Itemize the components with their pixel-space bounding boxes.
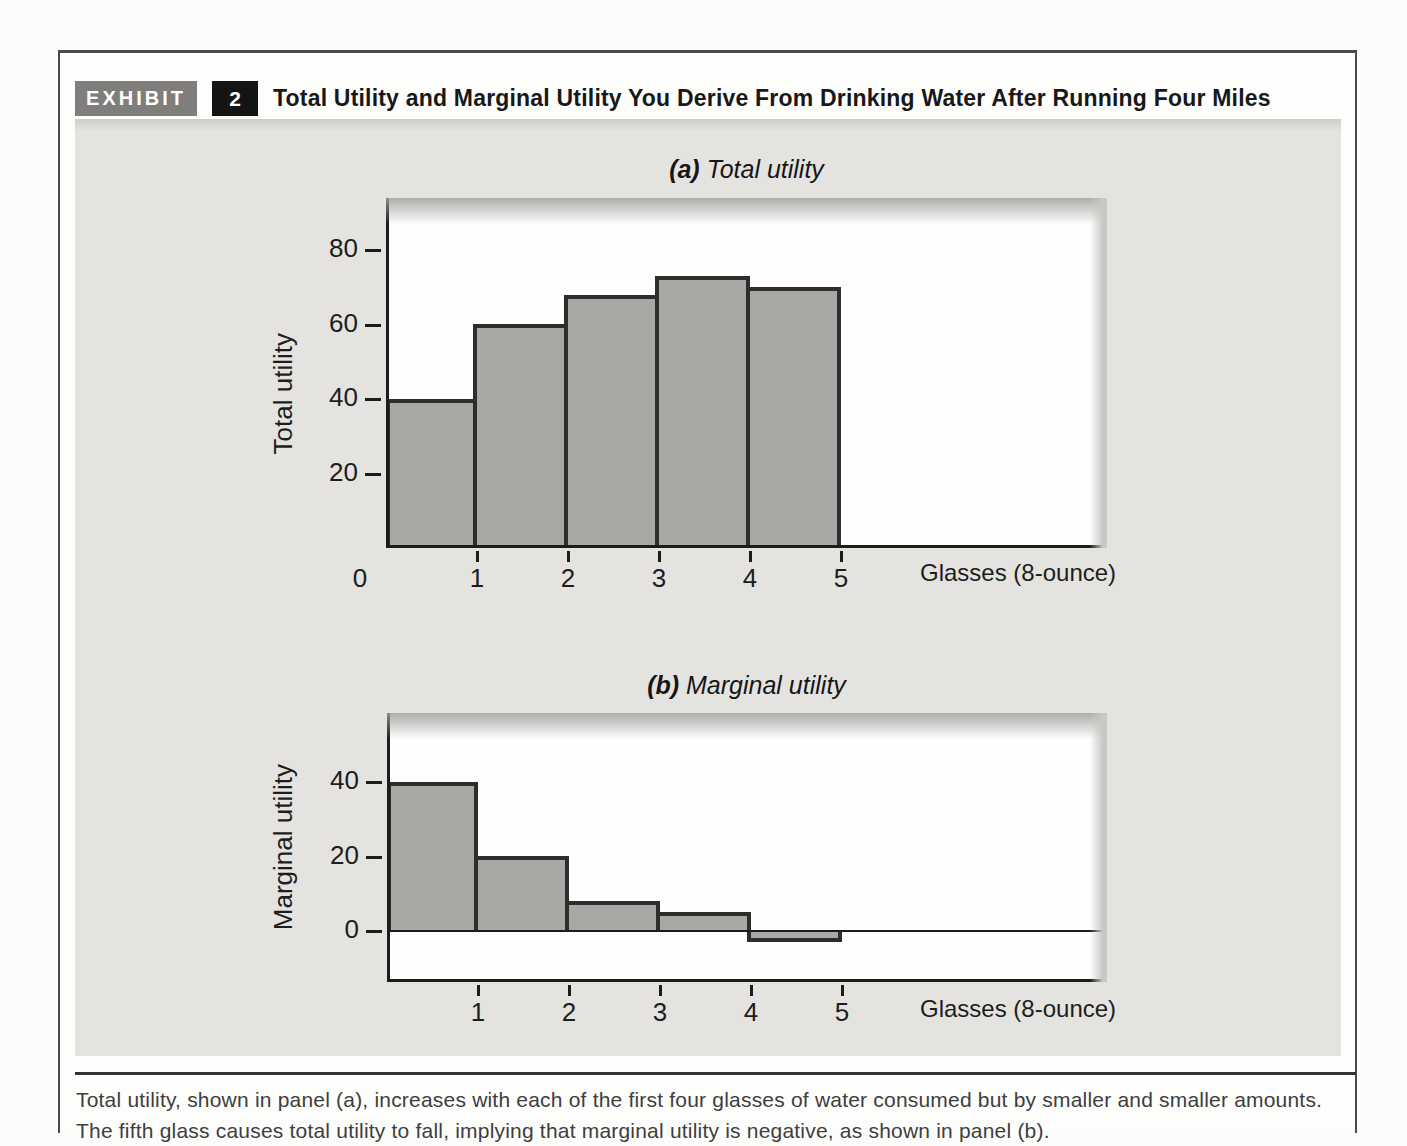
exhibit-badge: EXHIBIT	[75, 81, 197, 116]
exhibit-number-badge: 2	[212, 81, 258, 116]
panel-a-title-prefix: (a)	[669, 155, 700, 183]
y-tick-label-0: 0	[345, 914, 359, 945]
chart-panel-background: (a) Total utility Total utility 20406080…	[75, 119, 1341, 1056]
panel-b-right-shadow	[1090, 713, 1107, 982]
x-tick-label-5: 5	[834, 563, 848, 594]
panel-a-title: (a) Total utility	[386, 155, 1107, 184]
x-tick-1	[476, 551, 479, 562]
panel-b-zero-line	[387, 930, 1107, 932]
x-tick-label-1: 1	[471, 997, 485, 1028]
x-tick-label-1: 1	[470, 563, 484, 594]
bar-glass-2	[473, 324, 568, 548]
x-tick-label-5: 5	[835, 997, 849, 1028]
x-tick-5	[840, 551, 843, 562]
panel-a-plot-area: 20406080012345	[386, 198, 1107, 548]
y-tick-80	[365, 249, 381, 252]
panel-a-y-axis	[386, 198, 389, 548]
y-tick-label-20: 20	[329, 457, 358, 488]
caption-rule	[75, 1072, 1356, 1075]
exhibit-title: Total Utility and Marginal Utility You D…	[273, 85, 1271, 112]
panel-b-title-prefix: (b)	[647, 671, 679, 699]
bar-glass-1	[386, 399, 477, 548]
bar-glass-5	[747, 931, 842, 942]
x-tick-5	[841, 985, 844, 996]
bar-glass-3	[565, 901, 660, 931]
panel-b-x-axis	[387, 979, 1107, 982]
y-tick-0	[366, 930, 382, 933]
x-tick-3	[658, 551, 661, 562]
panel-b-title-text: Marginal utility	[686, 671, 846, 699]
panel-b-title: (b) Marginal utility	[386, 671, 1107, 700]
y-tick-40	[365, 398, 381, 401]
y-tick-20	[366, 856, 382, 859]
panel-b-y-axis-label: Marginal utility	[263, 713, 303, 982]
x-tick-label-4: 4	[743, 563, 757, 594]
x-tick-1	[477, 985, 480, 996]
panel-a-x-axis-label: Glasses (8-ounce)	[920, 559, 1116, 587]
bar-glass-1	[387, 782, 478, 931]
y-tick-label-40: 40	[330, 765, 359, 796]
y-tick-60	[365, 324, 381, 327]
panel-a-x-axis	[386, 545, 1107, 548]
panel-b-y-axis	[387, 713, 390, 982]
bar-glass-3	[564, 295, 659, 548]
x-tick-label-0: 0	[353, 563, 367, 594]
y-tick-label-60: 60	[329, 308, 358, 339]
exhibit-box: EXHIBIT 2 Total Utility and Marginal Uti…	[58, 50, 1357, 1133]
x-tick-label-3: 3	[652, 563, 666, 594]
panel-a-y-axis-label: Total utility	[263, 219, 303, 569]
y-tick-label-20: 20	[330, 840, 359, 871]
y-tick-20	[365, 473, 381, 476]
x-tick-2	[568, 985, 571, 996]
bar-glass-5	[746, 287, 841, 548]
x-tick-label-2: 2	[561, 563, 575, 594]
x-tick-4	[750, 985, 753, 996]
bar-glass-4	[656, 912, 751, 931]
y-tick-label-80: 80	[329, 233, 358, 264]
bar-glass-4	[655, 276, 750, 548]
x-tick-label-3: 3	[653, 997, 667, 1028]
panel-b-plot-area: 0204012345	[387, 713, 1107, 982]
exhibit-caption: Total utility, shown in panel (a), incre…	[76, 1084, 1354, 1146]
y-tick-40	[366, 781, 382, 784]
x-tick-4	[749, 551, 752, 562]
panel-a-title-text: Total utility	[707, 155, 824, 183]
x-tick-label-2: 2	[562, 997, 576, 1028]
x-tick-3	[659, 985, 662, 996]
x-tick-label-4: 4	[744, 997, 758, 1028]
panel-a-right-shadow	[1090, 198, 1107, 548]
panel-a-top-shadow	[386, 198, 1107, 228]
y-tick-label-40: 40	[329, 382, 358, 413]
x-tick-2	[567, 551, 570, 562]
panel-b-x-axis-label: Glasses (8-ounce)	[920, 995, 1116, 1023]
panel-b-top-shadow	[387, 713, 1107, 743]
bar-glass-2	[474, 856, 569, 931]
exhibit-header: EXHIBIT 2 Total Utility and Marginal Uti…	[75, 81, 1271, 116]
